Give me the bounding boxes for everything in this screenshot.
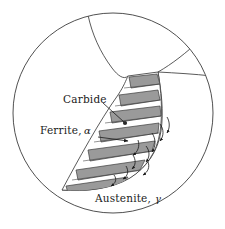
carbide-label: Carbide — [63, 93, 107, 105]
microstructure-diagram: Carbide Ferrite, α Austenite, γ — [0, 0, 225, 229]
ferrite-symbol-alpha: α — [84, 125, 91, 136]
ferrite-label: Ferrite, — [40, 124, 82, 136]
carbide-leader-dot — [123, 121, 127, 125]
austenite-label: Austenite, — [94, 192, 151, 204]
pearlite-microstructure-figure: Carbide Ferrite, α Austenite, γ — [0, 0, 225, 229]
austenite-symbol-gamma: γ — [155, 193, 161, 204]
